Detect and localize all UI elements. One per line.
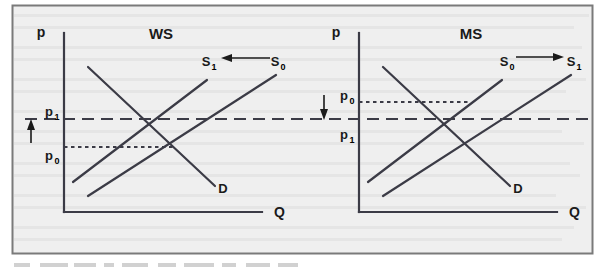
- ms-price-high-sub: 0: [349, 96, 354, 106]
- caption-row: [14, 263, 298, 267]
- ms-supply-shifted-sub: 1: [576, 62, 581, 72]
- ms-supply-initial-sub: 0: [509, 62, 514, 72]
- ms-demand-label: D: [513, 181, 522, 196]
- ws-supply-shifted-label: S: [202, 54, 211, 69]
- ms-price-low-label: p: [340, 127, 348, 142]
- figure-frame: [13, 6, 593, 254]
- ws-supply-shifted-sub: 1: [211, 62, 216, 72]
- supply-demand-figure: p Q WS S 1 S 0 D: [0, 0, 603, 268]
- ws-price-high-sub: 1: [54, 112, 59, 122]
- ws-demand-label: D: [218, 181, 227, 196]
- ms-supply-initial-label: S: [500, 54, 509, 69]
- figure-container: p Q WS S 1 S 0 D: [0, 0, 603, 268]
- ws-supply-initial-label: S: [271, 54, 280, 69]
- ws-supply-initial-sub: 0: [280, 62, 285, 72]
- ws-price-low-label: p: [45, 148, 53, 163]
- ms-supply-shifted-label: S: [567, 54, 576, 69]
